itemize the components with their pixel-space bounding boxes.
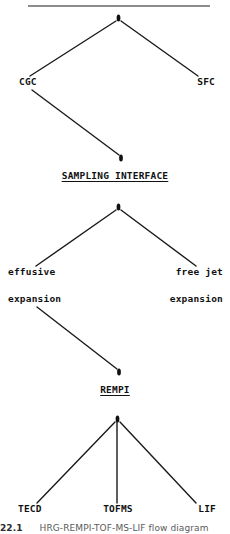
edge-apex3-to-tecd bbox=[37, 422, 115, 503]
edge-apex1-to-sfc bbox=[121, 21, 198, 76]
figure-flow-diagram: CGC SFC SAMPLING INTERFACE effusive expa… bbox=[0, 0, 230, 534]
junction-node-apex3 bbox=[116, 415, 120, 422]
junction-node-apex1 bbox=[117, 14, 121, 21]
figure-caption-text: HRG-REMPI-TOF-MS-LIF flow diagram bbox=[40, 523, 209, 533]
node-label-sampling-interface: SAMPLING INTERFACE bbox=[62, 170, 169, 181]
edge-effusive-to-merge2 bbox=[37, 307, 117, 369]
node-label-tofms: TOFMS bbox=[103, 503, 133, 514]
junction-node-merge2 bbox=[117, 368, 121, 375]
edge-apex1-to-cgc bbox=[30, 21, 116, 76]
node-label-cgc: CGC bbox=[19, 76, 37, 87]
node-label-sfc: SFC bbox=[197, 76, 215, 87]
junction-node-merge1 bbox=[119, 154, 123, 161]
figure-caption: 22.1 HRG-REMPI-TOF-MS-LIF flow diagram bbox=[0, 523, 230, 533]
node-label-effusive: effusive bbox=[8, 266, 55, 277]
node-label-rempi: REMPI bbox=[100, 384, 130, 395]
junction-node-apex2 bbox=[117, 203, 121, 210]
edge-cgc-to-merge1 bbox=[32, 90, 119, 155]
node-label-free-jet-expansion: expansion bbox=[170, 293, 223, 304]
edge-apex3-to-lif bbox=[120, 422, 196, 503]
node-label-tecd: TECD bbox=[18, 503, 42, 514]
edge-apex2-to-freejet bbox=[121, 210, 196, 266]
node-label-lif: LIF bbox=[198, 503, 216, 514]
junction-node-group bbox=[116, 14, 123, 422]
edge-apex2-to-effusive bbox=[36, 210, 116, 266]
node-label-free-jet: free jet bbox=[176, 266, 223, 277]
edge-group bbox=[30, 21, 198, 503]
figure-caption-number: 22.1 bbox=[0, 523, 23, 533]
node-label-effusive-expansion: expansion bbox=[8, 293, 61, 304]
